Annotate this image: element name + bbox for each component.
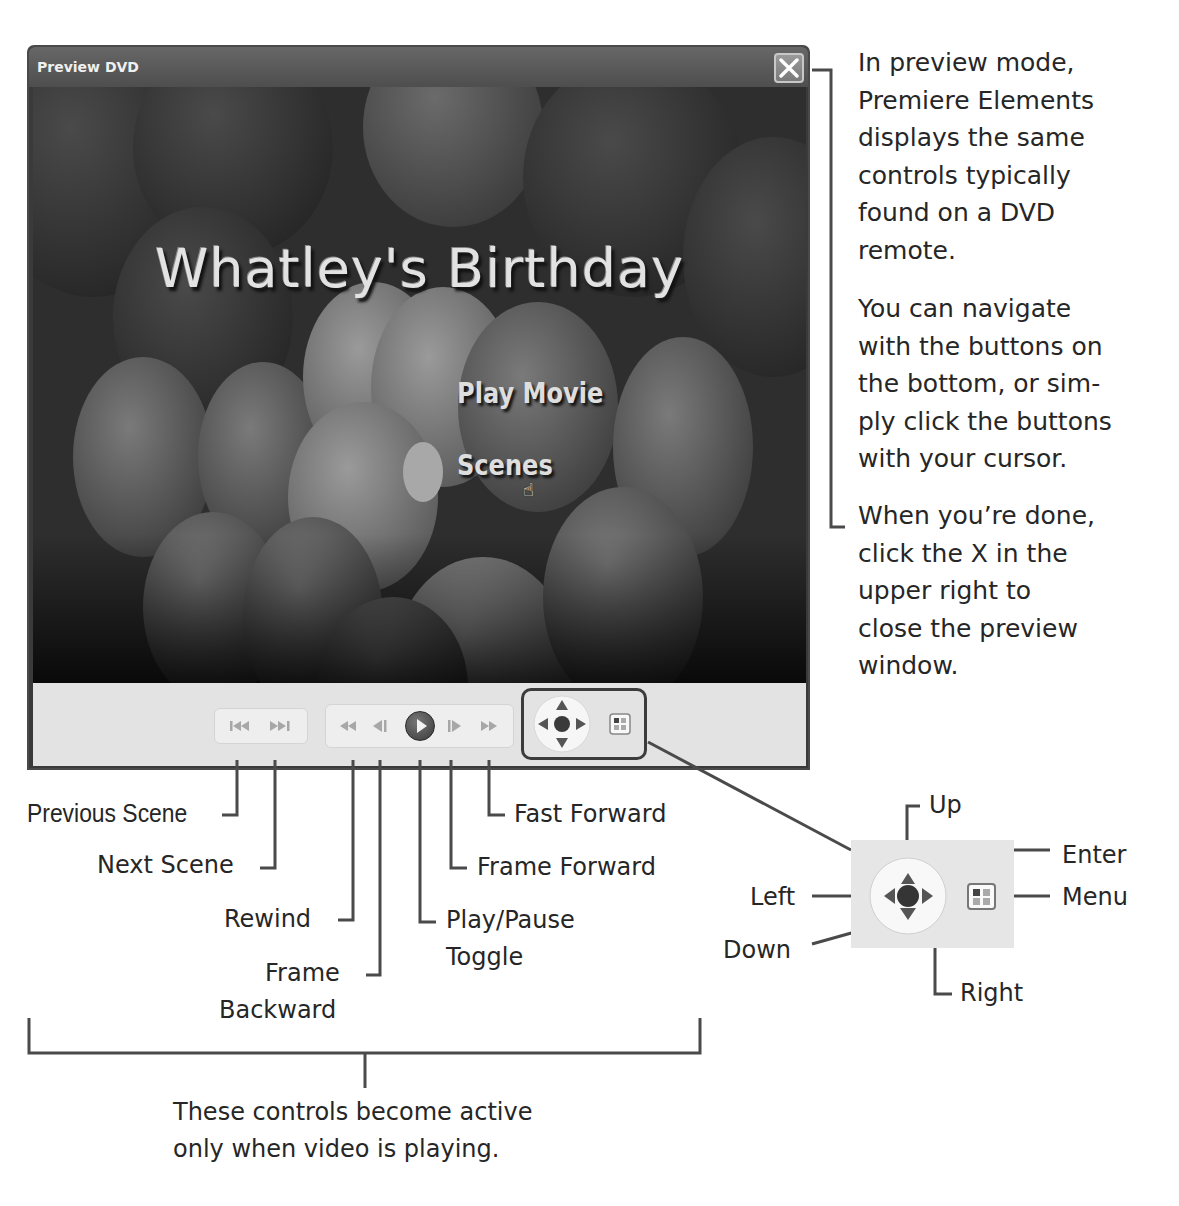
nav-enter-button[interactable]: [554, 716, 570, 732]
note-line: You can navigate: [858, 290, 1178, 328]
label-enter: Enter: [1062, 837, 1126, 874]
transport-button-group: [325, 704, 514, 748]
label-frame-backward-2: Backward: [219, 992, 336, 1029]
window-title: Preview DVD: [37, 59, 139, 75]
fast-forward-button[interactable]: [481, 721, 497, 731]
label-menu: Menu: [1062, 879, 1128, 916]
note-line: click the X in the: [858, 535, 1178, 573]
note-line: Premiere Elements: [858, 82, 1178, 120]
note-line: with your cursor.: [858, 440, 1178, 478]
note-line: When you’re done,: [858, 497, 1178, 535]
label-down: Down: [723, 932, 791, 969]
label-left: Left: [750, 879, 795, 916]
note-line: close the preview: [858, 610, 1178, 648]
frame-backward-button[interactable]: [373, 720, 387, 732]
frame-forward-button[interactable]: [448, 720, 461, 732]
navigation-controls-closeup: [851, 840, 1014, 948]
dvd-scenes-button[interactable]: Scenes: [457, 449, 553, 482]
dvd-play-movie-button[interactable]: Play Movie: [457, 377, 603, 410]
scene-button-group: [214, 708, 308, 744]
dvd-menu-title: Whatley's Birthday: [33, 237, 806, 300]
balloons-background-image: [33, 87, 806, 683]
note-line: window.: [858, 647, 1178, 685]
close-button[interactable]: [774, 53, 804, 83]
note-line: upper right to: [858, 572, 1178, 610]
closeup-enter-button[interactable]: [897, 885, 919, 907]
navigation-button-group: [521, 688, 647, 760]
preview-dvd-window: Preview DVD: [27, 45, 810, 770]
label-right: Right: [960, 975, 1023, 1012]
label-fast-forward: Fast Forward: [514, 796, 666, 833]
previous-scene-button[interactable]: [230, 721, 249, 731]
dvd-remote-controls: [33, 683, 806, 766]
note-line: with the buttons on: [858, 328, 1178, 366]
label-up: Up: [929, 787, 962, 824]
hand-cursor-icon: ☝: [523, 479, 534, 500]
label-frame-backward-1: Frame: [265, 955, 340, 992]
label-previous-scene: Previous Scene: [27, 795, 187, 832]
note-line: remote.: [858, 232, 1178, 270]
label-play-pause-2: Toggle: [446, 939, 523, 976]
bracket-note-line-2: only when video is playing.: [173, 1131, 499, 1168]
note-line: the bottom, or sim-: [858, 365, 1178, 403]
note-line: ply click the buttons: [858, 403, 1178, 441]
close-icon: [779, 58, 799, 78]
next-scene-button[interactable]: [270, 721, 290, 731]
callout-close-window: When you’re done, click the X in the upp…: [858, 497, 1178, 685]
note-line: In preview mode,: [858, 44, 1178, 82]
play-pause-toggle-button[interactable]: [405, 711, 435, 741]
title-bar[interactable]: Preview DVD: [29, 47, 808, 87]
note-line: displays the same: [858, 119, 1178, 157]
label-next-scene: Next Scene: [97, 847, 234, 884]
callout-navigate: You can navigate with the buttons on the…: [858, 290, 1178, 478]
label-rewind: Rewind: [224, 901, 311, 938]
menu-button[interactable]: [610, 714, 630, 734]
note-line: controls typically: [858, 157, 1178, 195]
callout-preview-mode: In preview mode, Premiere Elements displ…: [858, 44, 1178, 269]
dvd-menu-preview: Whatley's Birthday Play Movie Scenes ☝: [33, 87, 806, 683]
note-line: found on a DVD: [858, 194, 1178, 232]
label-frame-forward: Frame Forward: [477, 849, 656, 886]
closeup-menu-button[interactable]: [968, 884, 995, 909]
rewind-button[interactable]: [340, 721, 356, 731]
label-play-pause-1: Play/Pause: [446, 902, 575, 939]
bracket-note-line-1: These controls become active: [173, 1094, 532, 1131]
